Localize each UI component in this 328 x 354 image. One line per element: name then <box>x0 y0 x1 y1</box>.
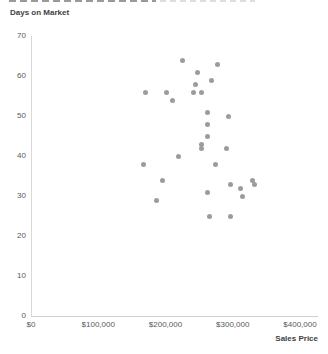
scatter-point <box>240 194 245 199</box>
y-axis-tick-label: 10 <box>4 272 26 280</box>
scatter-point <box>213 162 218 167</box>
scatter-point <box>205 134 210 139</box>
scatter-point <box>215 62 220 67</box>
scatter-point <box>180 58 185 63</box>
cropped-text-remnant-dark <box>9 0 156 2</box>
scatter-point <box>164 90 169 95</box>
cropped-text-remnant-light <box>160 0 255 2</box>
x-axis-tick-label: $100,000 <box>66 321 130 329</box>
x-axis-title: Sales Price <box>238 335 318 343</box>
y-axis-title: Days on Market <box>10 9 69 17</box>
scatter-point <box>143 90 148 95</box>
scatter-point <box>160 178 165 183</box>
scatter-point <box>154 198 159 203</box>
scatter-point <box>205 110 210 115</box>
scatter-point <box>170 98 175 103</box>
scatter-point <box>224 146 229 151</box>
scatter-point <box>205 190 210 195</box>
scatter-point <box>193 82 198 87</box>
y-axis-tick-label: 30 <box>4 192 26 200</box>
scatter-point <box>141 162 146 167</box>
scatter-point <box>226 114 231 119</box>
scatter-point <box>199 90 204 95</box>
x-axis-tick-label: $400,000 <box>268 321 328 329</box>
y-axis-tick-label: 0 <box>4 312 26 320</box>
scatter-point <box>228 214 233 219</box>
scatter-point <box>228 182 233 187</box>
scatter-point <box>252 182 257 187</box>
scatter-point <box>238 186 243 191</box>
y-axis-tick-label: 70 <box>4 32 26 40</box>
scatter-point <box>195 70 200 75</box>
y-axis-tick-label: 50 <box>4 112 26 120</box>
x-axis-line <box>31 316 318 317</box>
y-axis-tick-label: 20 <box>4 232 26 240</box>
scatter-point <box>209 78 214 83</box>
scatter-point <box>207 214 212 219</box>
y-axis-tick-label: 60 <box>4 72 26 80</box>
scatter-point <box>191 90 196 95</box>
scatter-point <box>205 122 210 127</box>
scatter-point <box>176 154 181 159</box>
y-axis-tick-label: 40 <box>4 152 26 160</box>
y-axis-line <box>31 36 32 316</box>
x-axis-tick-label: $0 <box>0 321 63 329</box>
x-axis-tick-label: $300,000 <box>201 321 265 329</box>
scatter-point <box>199 146 204 151</box>
x-axis-tick-label: $200,000 <box>134 321 198 329</box>
